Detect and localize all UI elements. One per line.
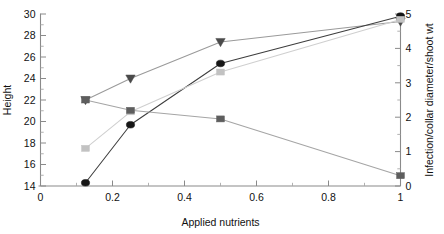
y-tick-label: 18: [24, 137, 36, 149]
data-point[interactable]: [82, 145, 90, 151]
x-tick-label: 0.6: [249, 191, 264, 203]
x-tick-label: 0: [38, 191, 44, 203]
marker-circle: [216, 60, 224, 67]
data-point[interactable]: [126, 121, 134, 128]
y2-tick-label: 5: [406, 8, 412, 20]
y-tick-label: 20: [24, 115, 36, 127]
marker-triangle: [126, 75, 135, 83]
marker-triangle: [216, 38, 225, 46]
data-point[interactable]: [217, 69, 225, 75]
x-axis-title: Applied nutrients: [181, 216, 259, 228]
axis-titles: Applied nutrientsHeightInfection/collar …: [1, 23, 435, 228]
marker-square: [127, 107, 135, 113]
y-tick-label: 24: [24, 72, 36, 84]
y-axis-ticks: 141618202224262830: [24, 8, 46, 192]
y-tick-label: 30: [24, 8, 36, 20]
data-point[interactable]: [126, 75, 135, 83]
chart-plot: 141618202224262830 012345 00.20.40.60.81…: [0, 0, 444, 234]
y2-tick-label: 0: [406, 180, 412, 192]
data-point[interactable]: [216, 60, 224, 67]
y2-tick-label: 1: [406, 145, 412, 157]
y-tick-label: 14: [24, 180, 36, 192]
data-point[interactable]: [82, 97, 90, 103]
marker-square: [217, 69, 225, 75]
series-line-height-circles: [86, 16, 401, 183]
x-tick-label: 0.2: [105, 191, 120, 203]
y-tick-label: 26: [24, 51, 36, 63]
data-point[interactable]: [397, 173, 405, 179]
marker-square: [397, 173, 405, 179]
y-axis-title: Height: [1, 85, 13, 115]
x-axis-ticks: 00.20.40.60.81: [38, 181, 404, 203]
y-tick-label: 22: [24, 94, 36, 106]
y2-tick-label: 4: [406, 42, 412, 54]
marker-square: [397, 16, 405, 22]
chart-container: 141618202224262830 012345 00.20.40.60.81…: [0, 0, 444, 234]
y-tick-label: 16: [24, 158, 36, 170]
series-markers: [81, 13, 405, 186]
y2-tick-label: 2: [406, 111, 412, 123]
marker-square: [82, 97, 90, 103]
y2-axis-title: Infection/collar diameter/shoot wt: [423, 23, 435, 177]
y2-axis-ticks: 012345: [395, 8, 412, 192]
data-point[interactable]: [81, 179, 89, 186]
data-point[interactable]: [217, 116, 225, 122]
data-point[interactable]: [397, 16, 405, 22]
data-point[interactable]: [216, 38, 225, 46]
x-tick-label: 1: [398, 191, 404, 203]
data-point[interactable]: [127, 107, 135, 113]
series-lines: [86, 16, 401, 183]
marker-circle: [126, 121, 134, 128]
x-tick-label: 0.8: [321, 191, 336, 203]
y2-tick-label: 3: [406, 77, 412, 89]
x-tick-label: 0.4: [177, 191, 192, 203]
marker-square: [82, 145, 90, 151]
series-line-height-light-squares: [86, 19, 401, 148]
marker-square: [217, 116, 225, 122]
y-tick-label: 28: [24, 29, 36, 41]
marker-circle: [81, 179, 89, 186]
